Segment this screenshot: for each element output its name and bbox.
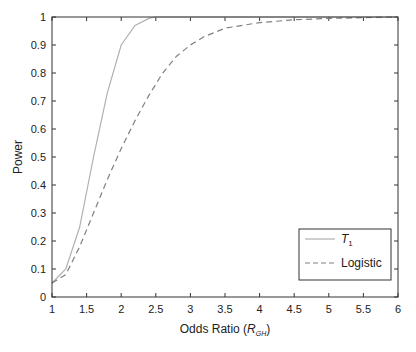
y-tick-label: 0.3 [31, 207, 46, 219]
x-axis-label: Odds Ratio (RGH) [180, 322, 271, 337]
x-tick-label: 5 [326, 303, 332, 315]
y-tick-label: 1 [40, 11, 46, 23]
y-tick-label: 0.4 [31, 179, 46, 191]
x-tick-label: 6 [395, 303, 401, 315]
legend: T1 Logistic [299, 229, 391, 280]
legend-label-logistic: Logistic [341, 256, 382, 270]
y-tick-label: 0.7 [31, 95, 46, 107]
x-tick-label: 1 [49, 303, 55, 315]
y-tick-label: 0.2 [31, 235, 46, 247]
y-tick-label: 0.1 [31, 263, 46, 275]
x-tick-label: 4.5 [287, 303, 302, 315]
x-tick-label: 5.5 [356, 303, 371, 315]
y-tick-label: 0.6 [31, 123, 46, 135]
x-tick-label: 3 [187, 303, 193, 315]
y-tick-label: 0 [40, 291, 46, 303]
x-tick-label: 4 [257, 303, 263, 315]
y-tick-label: 0.5 [31, 151, 46, 163]
x-tick-label: 1.5 [79, 303, 94, 315]
x-tick-label: 2.5 [148, 303, 163, 315]
power-chart: 11.522.533.544.555.5600.10.20.30.40.50.6… [0, 0, 416, 352]
y-tick-label: 0.8 [31, 67, 46, 79]
x-tick-label: 2 [118, 303, 124, 315]
y-tick-label: 0.9 [31, 39, 46, 51]
x-tick-label: 3.5 [217, 303, 232, 315]
y-axis-label: Power [11, 140, 25, 174]
